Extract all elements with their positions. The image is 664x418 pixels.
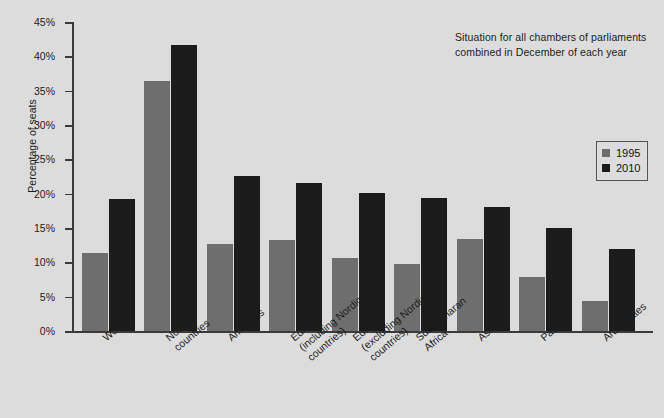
bar-1995 — [269, 240, 295, 331]
y-axis-tick: 45% — [65, 22, 72, 24]
y-axis-tick-label: 35% — [34, 85, 55, 97]
bar-1995 — [207, 244, 233, 331]
y-axis-tick-label: 10% — [34, 256, 55, 268]
y-axis-tick-label: 25% — [34, 153, 55, 165]
x-axis-labels: WorldNordiccountriesAmericasEurope(inclu… — [72, 334, 662, 418]
y-axis-tick-label: 45% — [34, 16, 55, 28]
bar-group — [269, 22, 322, 331]
legend-item-1995[interactable]: 1995 — [602, 146, 640, 161]
legend: 19952010 — [596, 141, 648, 181]
bar-group — [519, 22, 572, 331]
legend-item-2010[interactable]: 2010 — [602, 161, 640, 176]
y-axis-tick: 10% — [65, 262, 72, 264]
bar-1995 — [582, 301, 608, 331]
bar-2010 — [109, 199, 135, 331]
bar-2010 — [171, 45, 197, 331]
y-axis-tick: 40% — [65, 56, 72, 58]
y-axis-tick-label: 30% — [34, 119, 55, 131]
bar-1995 — [144, 81, 170, 331]
y-axis-tick: 25% — [65, 159, 72, 161]
bar-group — [394, 22, 447, 331]
bars-layer — [74, 22, 653, 331]
y-axis-tick-label: 5% — [40, 291, 55, 303]
bar-group — [332, 22, 385, 331]
bar-1995 — [519, 277, 545, 331]
bar-2010 — [484, 207, 510, 331]
legend-label: 1995 — [616, 146, 640, 161]
y-axis-tick-label: 20% — [34, 188, 55, 200]
y-axis-tick: 5% — [65, 297, 72, 299]
bar-group — [144, 22, 197, 331]
bar-group — [457, 22, 510, 331]
bar-group — [207, 22, 260, 331]
y-axis-tick-label: 0% — [40, 325, 55, 337]
y-axis-tick: 20% — [65, 194, 72, 196]
y-axis-tick-label: 40% — [34, 50, 55, 62]
y-axis-tick: 15% — [65, 228, 72, 230]
y-axis-tick: 0% — [65, 331, 72, 333]
y-axis-tick: 35% — [65, 91, 72, 93]
bar-1995 — [82, 253, 108, 331]
legend-swatch-icon — [602, 164, 610, 172]
legend-label: 2010 — [616, 161, 640, 176]
y-axis-tick-label: 15% — [34, 222, 55, 234]
legend-swatch-icon — [602, 149, 610, 157]
plot-area: 45%40%35%30%25%20%15%10%5%0% — [72, 22, 652, 331]
y-axis-tick: 30% — [65, 125, 72, 127]
bar-chart: Situation for all chambers of parliament… — [0, 0, 664, 418]
bar-group — [82, 22, 135, 331]
